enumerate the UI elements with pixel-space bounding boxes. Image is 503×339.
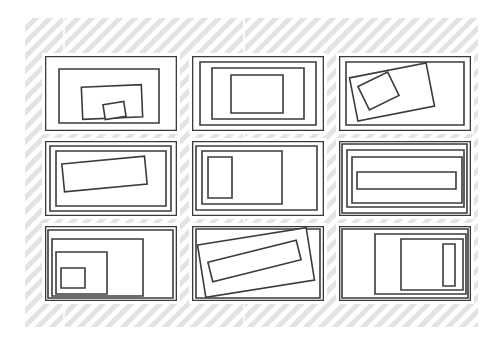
shape-rect-4-square	[231, 75, 283, 113]
nested-rectangles-drawing	[339, 141, 471, 216]
nested-rectangles-drawing	[192, 56, 324, 131]
nested-rectangles-drawing	[45, 141, 177, 216]
nested-rectangles-drawing	[45, 226, 177, 301]
shape-rect-5-bar	[357, 172, 456, 189]
shape-rect-4-small	[103, 101, 126, 119]
rectangle-card-tilted-rect-with-thin-diagonal-bar	[192, 226, 324, 301]
nested-rectangles-drawing	[339, 56, 471, 131]
nested-rectangles-drawing	[192, 226, 324, 301]
rectangle-cards-grid	[0, 0, 503, 339]
rectangle-card-nested-rects-offset-bottom	[45, 56, 177, 131]
shape-rect-5-thin-bar	[443, 244, 455, 286]
shape-rect-4-portrait	[208, 157, 232, 198]
rectangle-card-nested-rects-with-tilted-bar	[45, 141, 177, 216]
shape-rect-5-small	[61, 268, 85, 288]
rectangle-card-corner-nested-rects-bottom-left	[45, 226, 177, 301]
nested-rectangles-drawing	[45, 56, 177, 131]
rectangle-card-left-anchored-portrait-rect	[192, 141, 324, 216]
rectangle-card-concentric-rects-centered	[192, 56, 324, 131]
nested-rectangles-drawing	[339, 226, 471, 301]
figure-canvas	[0, 0, 503, 339]
nested-rectangles-drawing	[192, 141, 324, 216]
rectangle-card-rotated-rect-with-tilted-square	[339, 56, 471, 131]
rectangle-card-right-anchored-rects-with-thin-bar	[339, 226, 471, 301]
rectangle-card-stacked-rects-with-wide-bar	[339, 141, 471, 216]
